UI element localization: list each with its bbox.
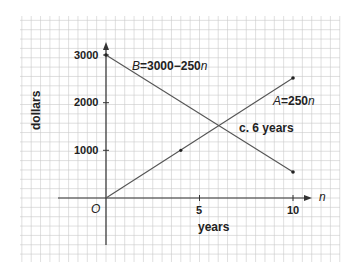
series-a-point-4 — [179, 149, 182, 152]
y-tick-label-3000: 3000 — [74, 50, 98, 61]
x-tick-label-5: 5 — [196, 205, 202, 216]
y-axis-label: dollars — [30, 91, 42, 130]
x-axis-label: years — [198, 221, 229, 233]
series-b-var: B — [132, 59, 140, 73]
chart-plot — [0, 0, 359, 277]
y-tick-label-2000: 2000 — [74, 97, 98, 108]
grid-lines — [20, 16, 340, 262]
series-a-label: A=250n — [273, 95, 315, 107]
y-tick-label-1000: 1000 — [74, 145, 98, 156]
series-b-n: n — [201, 59, 208, 73]
series-b-label: B=3000−250n — [132, 60, 207, 72]
series-b-point-10 — [291, 170, 295, 174]
series-a-var: A — [273, 94, 281, 108]
intersection-annotation: c. 6 years — [239, 122, 294, 134]
series-b-eq: =3000−250 — [140, 59, 201, 73]
x-axis-arrow-icon — [304, 195, 312, 201]
series-a-point-10 — [291, 76, 295, 80]
y-axis-arrow-icon — [103, 42, 109, 50]
series-a-eq: =250 — [281, 94, 308, 108]
x-axis-symbol: n — [319, 191, 326, 203]
chart-container: 3000 2000 1000 dollars O 5 10 years n B=… — [0, 0, 359, 277]
series-b-point-0 — [104, 53, 108, 57]
origin-label: O — [91, 203, 100, 215]
x-tick-label-10: 10 — [287, 205, 299, 216]
series-a-n: n — [308, 94, 315, 108]
